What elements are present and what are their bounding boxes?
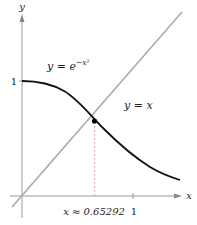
x-axis-arrow-icon <box>174 194 182 199</box>
y-axis-label: y <box>18 1 25 12</box>
curve-label: y = e−x² <box>46 58 89 73</box>
curve-label-base: y = e <box>46 60 76 73</box>
intersection-x-label: x ≈ 0.65292 <box>63 206 125 217</box>
y-axis-arrow-icon <box>20 14 25 22</box>
curve-label-exponent: −x² <box>76 58 90 67</box>
curve-exp-neg-x-squared <box>22 81 180 180</box>
chart-figure: y x 1 1 y = e−x² y = x x ≈ 0.65292 <box>0 0 197 225</box>
line-y-equals-x <box>12 12 182 207</box>
x-axis-label: x <box>186 190 192 201</box>
x-tick-label-1: 1 <box>131 206 137 217</box>
y-tick-label-1: 1 <box>11 76 17 87</box>
line-label: y = x <box>123 99 153 112</box>
intersection-point <box>92 118 97 123</box>
